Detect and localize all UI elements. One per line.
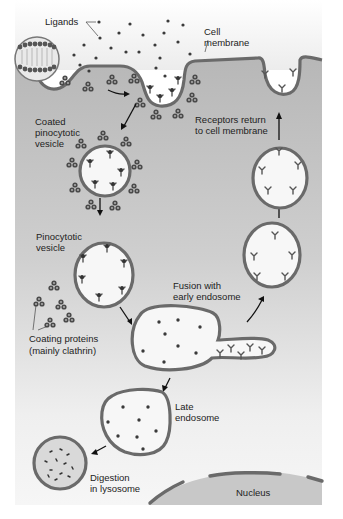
label-digestion-1: Digestion xyxy=(90,472,130,483)
recycling-vesicle-lower xyxy=(244,223,300,287)
label-pinocytotic-2: vesicle xyxy=(36,242,65,253)
label-coated-1: Coated xyxy=(35,116,66,127)
label-coating-proteins-2: (mainly clathrin) xyxy=(29,345,96,356)
label-coated-3: vesicle xyxy=(35,138,64,149)
recycling-vesicle-upper xyxy=(253,148,307,208)
label-pinocytotic-1: Pinocytotic xyxy=(36,231,82,242)
pinocytotic-vesicle xyxy=(75,243,133,307)
label-cell-membrane-1: Cell xyxy=(204,26,220,37)
label-coated-2: pinocytotic xyxy=(35,127,80,138)
extracellular-space xyxy=(15,0,322,70)
label-late-endosome-1: Late xyxy=(175,401,194,412)
endocytosis-diagram: Ligands Cell membrane Coated pinocytotic… xyxy=(0,0,343,519)
late-endosome xyxy=(102,389,170,454)
label-receptors-return-2: to cell membrane xyxy=(195,125,268,136)
receptors-pit xyxy=(147,76,181,102)
label-coating-proteins-1: Coating proteins xyxy=(29,333,98,344)
label-late-endosome-2: endosome xyxy=(175,412,219,423)
diagram-canvas xyxy=(0,0,343,519)
label-nucleus: Nucleus xyxy=(236,487,270,498)
label-fusion-2: early endosome xyxy=(173,291,241,302)
label-cell-membrane-2: membrane xyxy=(204,37,249,48)
bilayer-inset xyxy=(15,37,59,81)
label-digestion-2: in lysosome xyxy=(90,483,140,494)
lysosome xyxy=(34,437,86,489)
label-fusion-1: Fusion with xyxy=(173,280,221,291)
label-receptors-return-1: Receptors return xyxy=(195,114,266,125)
label-ligands: Ligands xyxy=(45,16,78,27)
